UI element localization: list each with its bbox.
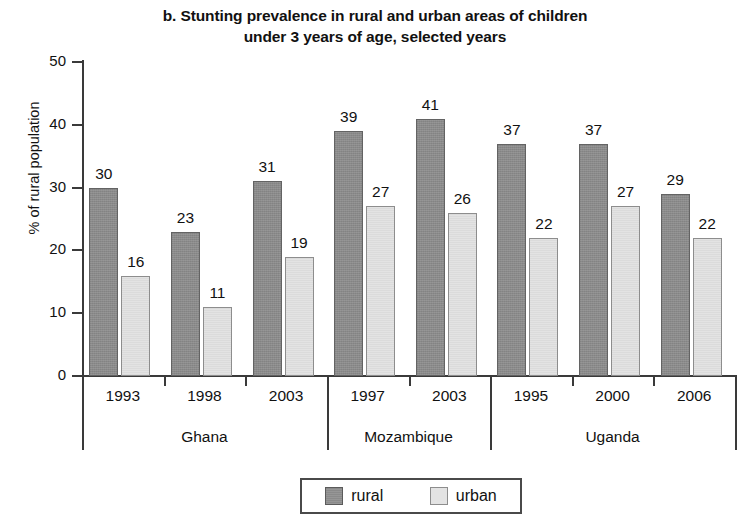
y-axis-title: % of rural population	[26, 38, 42, 298]
legend-item-urban: urban	[430, 487, 497, 505]
x-axis-tick	[653, 377, 655, 386]
bar-value-label: 11	[197, 284, 237, 302]
bar-value-label: 29	[655, 171, 695, 189]
y-axis-tick	[72, 375, 82, 377]
y-axis-tick-label: 50	[26, 52, 66, 69]
bar-urban	[448, 213, 477, 376]
y-axis-tick-label: 10	[26, 303, 66, 320]
plot-right-border	[735, 375, 737, 450]
bar-value-label: 31	[247, 158, 287, 176]
bar-rural	[334, 131, 363, 376]
bar-urban	[693, 238, 722, 376]
x-axis-country-label: Ghana	[124, 428, 284, 446]
bar-rural	[497, 144, 526, 376]
y-axis-tick	[72, 124, 82, 126]
bar-value-label: 27	[361, 183, 401, 201]
bar-urban	[366, 206, 395, 376]
bar-urban	[285, 257, 314, 376]
y-axis-tick-label: 20	[26, 240, 66, 257]
x-axis-year-label: 2006	[659, 387, 729, 405]
x-axis-year-label: 1997	[333, 387, 403, 405]
bar-urban	[611, 206, 640, 376]
chart-legend: rural urban	[300, 478, 522, 514]
legend-label-urban: urban	[456, 487, 497, 505]
y-axis-tick-label: 0	[26, 366, 66, 383]
bar-value-label: 23	[165, 209, 205, 227]
bar-value-label: 37	[574, 121, 614, 139]
bar-value-label: 22	[524, 215, 564, 233]
x-axis-year-label: 2000	[578, 387, 648, 405]
y-axis-tick	[72, 312, 82, 314]
bar-value-label: 37	[492, 121, 532, 139]
y-axis-tick	[72, 187, 82, 189]
bar-rural	[253, 181, 282, 376]
y-axis-tick	[72, 249, 82, 251]
x-axis-tick	[245, 377, 247, 386]
bar-urban	[529, 238, 558, 376]
x-axis-tick	[409, 377, 411, 386]
bar-rural	[661, 194, 690, 376]
x-axis-tick	[572, 377, 574, 386]
x-axis-year-label: 2003	[251, 387, 321, 405]
legend-swatch-urban-icon	[430, 487, 448, 505]
chart-title-line-2: under 3 years of age, selected years	[60, 27, 690, 48]
x-axis-tick	[164, 377, 166, 386]
bar-value-label: 27	[606, 183, 646, 201]
x-axis-year-label: 1993	[88, 387, 158, 405]
chart-figure: b. Stunting prevalence in rural and urba…	[0, 0, 749, 523]
legend-swatch-rural-icon	[325, 487, 343, 505]
bar-value-label: 16	[116, 253, 156, 271]
group-separator	[490, 377, 492, 450]
bar-rural	[579, 144, 608, 376]
y-axis-tick-label: 40	[26, 115, 66, 132]
y-axis-line	[82, 60, 84, 450]
chart-title-line-1: b. Stunting prevalence in rural and urba…	[60, 6, 690, 27]
y-axis-tick	[72, 61, 82, 63]
bar-value-label: 19	[279, 234, 319, 252]
bar-value-label: 39	[329, 108, 369, 126]
legend-label-rural: rural	[351, 487, 383, 505]
x-axis-year-label: 1995	[496, 387, 566, 405]
bar-urban	[203, 307, 232, 376]
x-axis-year-label: 1998	[169, 387, 239, 405]
x-axis-country-label: Uganda	[533, 428, 693, 446]
bar-value-label: 30	[84, 165, 124, 183]
chart-title: b. Stunting prevalence in rural and urba…	[60, 6, 690, 48]
bar-value-label: 41	[410, 96, 450, 114]
x-axis-country-label: Mozambique	[329, 428, 489, 446]
legend-item-rural: rural	[325, 487, 383, 505]
y-axis-tick-label: 30	[26, 178, 66, 195]
bar-rural	[416, 119, 445, 376]
bar-urban	[121, 276, 150, 376]
bar-rural	[89, 188, 118, 376]
x-axis-year-label: 2003	[414, 387, 484, 405]
bar-value-label: 22	[687, 215, 727, 233]
bar-rural	[171, 232, 200, 376]
bar-value-label: 26	[442, 190, 482, 208]
